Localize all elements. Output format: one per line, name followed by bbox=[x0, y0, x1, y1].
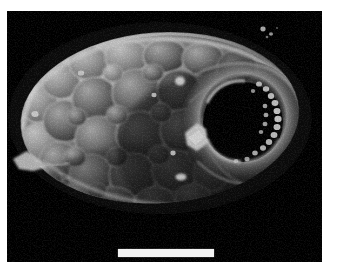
sem-micrograph-image bbox=[7, 11, 322, 262]
film-grain-overlay bbox=[7, 11, 322, 262]
scale-bar bbox=[118, 249, 214, 257]
figure-root bbox=[0, 0, 338, 277]
micrograph-plate bbox=[7, 11, 322, 262]
